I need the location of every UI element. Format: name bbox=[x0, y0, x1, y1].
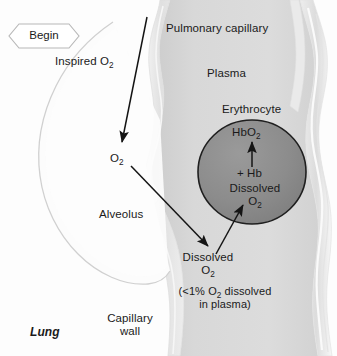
label-inspired-o2: Inspired O2 bbox=[55, 55, 114, 68]
label-inspired-o2-text: Inspired O bbox=[55, 55, 109, 67]
begin-node[interactable]: Begin bbox=[8, 23, 80, 49]
label-inspired-o2-subscript: 2 bbox=[109, 61, 114, 70]
label-alveolar-o2: O2 bbox=[110, 152, 124, 165]
label-dissolved-o2-erythrocyte-line2: O bbox=[248, 195, 257, 207]
begin-node-label: Begin bbox=[8, 29, 80, 41]
label-alveolar-o2-text: O bbox=[110, 152, 119, 164]
label-dissolved-o2-plasma: DissolvedO2 bbox=[175, 251, 241, 277]
label-dissolved-o2-erythrocyte: DissolvedO2 bbox=[222, 182, 288, 208]
oxygen-transport-diagram: Begin Pulmonary capillary Plasma Erythro… bbox=[0, 0, 337, 356]
label-erythrocyte: Erythrocyte bbox=[222, 103, 281, 116]
label-note-percent-dissolved: (<1% O2 dissolvedin plasma) bbox=[166, 285, 284, 310]
label-dissolved-o2-erythrocyte-subscript: 2 bbox=[257, 201, 262, 210]
arrow-alveolar-o2-to-dissolved-plasma bbox=[131, 166, 208, 246]
label-hbo2-text: HbO bbox=[232, 126, 256, 138]
label-dissolved-o2-plasma-line2: O bbox=[201, 264, 210, 276]
label-pulmonary-capillary: Pulmonary capillary bbox=[166, 22, 268, 35]
label-alveolus: Alveolus bbox=[99, 208, 143, 221]
label-note-subscript: 2 bbox=[217, 291, 222, 300]
label-hbo2-subscript: 2 bbox=[256, 132, 261, 141]
arrow-inspired-o2-to-alveolar-o2 bbox=[122, 17, 147, 142]
label-capillary-wall: Capillary wall bbox=[99, 312, 161, 338]
label-dissolved-o2-plasma-subscript: 2 bbox=[210, 270, 215, 279]
label-alveolar-o2-subscript: 2 bbox=[119, 158, 124, 167]
label-plus-hb: + Hb bbox=[237, 167, 262, 180]
label-dissolved-o2-plasma-line1: Dissolved bbox=[183, 251, 234, 263]
label-plasma: Plasma bbox=[207, 67, 246, 80]
label-dissolved-o2-erythrocyte-line1: Dissolved bbox=[230, 182, 281, 194]
label-lung: Lung bbox=[30, 326, 60, 340]
arrow-dissolved-plasma-to-erythrocyte bbox=[216, 205, 243, 254]
label-hbo2: HbO2 bbox=[232, 126, 261, 139]
